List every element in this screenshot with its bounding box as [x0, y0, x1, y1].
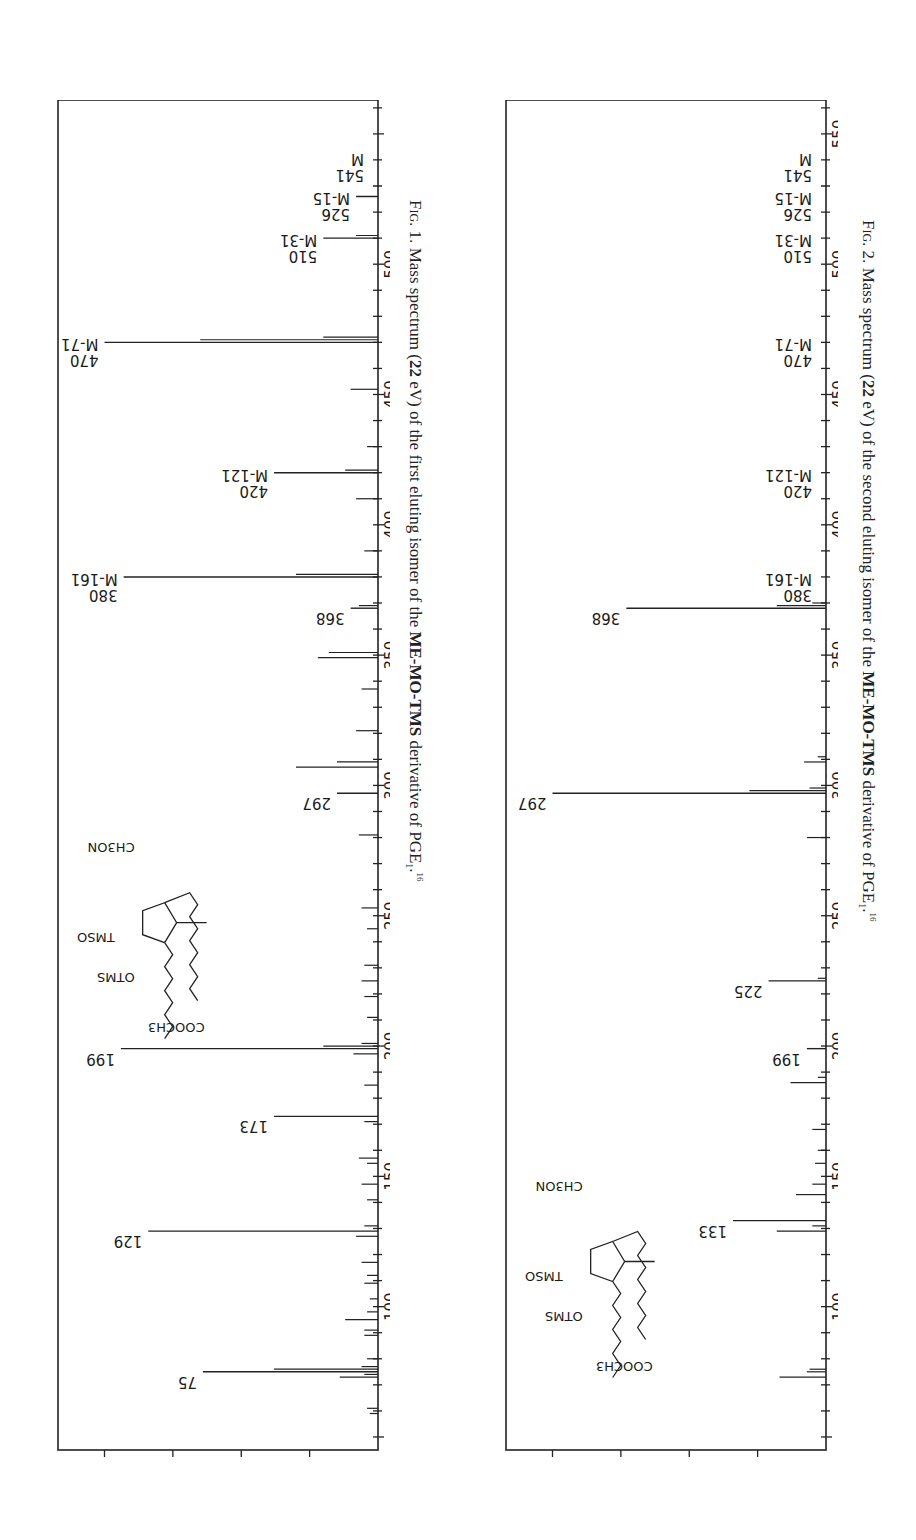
svg-text:500: 500	[382, 250, 390, 279]
peak-label: 510	[289, 247, 318, 265]
peak-label: 541	[783, 166, 812, 184]
svg-text:OTMS: OTMS	[97, 970, 135, 985]
peak-label: 380	[89, 586, 118, 604]
svg-text:100: 100	[382, 1292, 390, 1321]
svg-text:350: 350	[382, 641, 390, 670]
svg-text:100: 100	[830, 1292, 838, 1321]
peak-label: M-71	[61, 335, 98, 353]
x-axis-tick-labels: 100150200250300350400450500550	[830, 120, 838, 1321]
svg-text:550: 550	[830, 120, 838, 149]
svg-text:21.8: 21.8	[521, 100, 552, 103]
svg-text:75: 75	[612, 1459, 630, 1460]
peak-label: M-71	[775, 335, 812, 353]
plot-area: 100150200250300350400450500255075100RELA…	[58, 100, 390, 1460]
peak-label: 470	[783, 351, 812, 369]
svg-text:100: 100	[539, 1459, 566, 1460]
peak-label: 129	[114, 1232, 143, 1250]
svg-text:450: 450	[382, 380, 390, 409]
peak-label: M-121	[221, 466, 268, 484]
svg-text:200: 200	[830, 1032, 838, 1061]
figure-1-caption: Fig. 1. Mass spectrum (22 eV) of the fir…	[404, 200, 425, 882]
svg-text:Σ%: Σ%	[806, 100, 828, 103]
plot-frame	[58, 100, 378, 1450]
peak-label: 173	[239, 1117, 268, 1135]
svg-text:150: 150	[830, 1162, 838, 1191]
peak-label: 75	[178, 1373, 197, 1391]
mass-spectrum-chart-1: 100150200250300350400450500255075100RELA…	[6, 100, 390, 1460]
peak-label: 420	[783, 482, 812, 500]
svg-text:Σ%: Σ%	[358, 100, 380, 103]
svg-text:8.4: 8.4	[82, 100, 104, 103]
peak-label: M	[799, 150, 812, 168]
fig-label: Fig. 2.	[859, 220, 878, 263]
mass-spectrum-chart-2: 100150200250300350400450500550m/e2550751…	[454, 100, 838, 1460]
svg-text:250: 250	[382, 901, 390, 930]
svg-text:400: 400	[382, 510, 390, 539]
svg-text:11: 11	[671, 100, 689, 103]
plot-area: 100150200250300350400450500550m/e2550751…	[506, 100, 838, 1460]
chart-2-svg: 100150200250300350400450500550m/e2550751…	[458, 100, 838, 1460]
svg-text:150: 150	[382, 1162, 390, 1191]
peak-label: 133	[698, 1222, 727, 1240]
svg-text:250: 250	[830, 901, 838, 930]
svg-text:CH3ON: CH3ON	[88, 840, 135, 855]
svg-text:200: 200	[382, 1032, 390, 1061]
svg-text:TMSO: TMSO	[525, 1269, 564, 1284]
peak-label: 470	[70, 351, 99, 369]
peak-label: M-121	[765, 466, 812, 484]
peak-label: 541	[335, 166, 364, 184]
pge1-structure: COOCH3CH3ONTMSOOTMS	[77, 840, 207, 1039]
svg-text:25: 25	[301, 1459, 319, 1460]
peak-label: 225	[734, 982, 763, 1000]
svg-text:COOCH3: COOCH3	[148, 1020, 205, 1035]
svg-text:4: 4	[232, 100, 241, 103]
peak-label: 297	[518, 794, 547, 812]
svg-text:300: 300	[382, 771, 390, 800]
peak-label: 199	[86, 1050, 115, 1068]
svg-text:500: 500	[830, 250, 838, 279]
peak-label: 368	[316, 609, 345, 627]
reference-superscript: 16	[868, 912, 878, 921]
svg-text:CH3ON: CH3ON	[536, 1179, 583, 1194]
fig-label: Fig. 1.	[406, 200, 425, 243]
svg-text:75: 75	[164, 1459, 182, 1460]
peak-label: M-161	[71, 570, 118, 588]
peak-label: 199	[772, 1050, 801, 1068]
svg-text:300: 300	[830, 771, 838, 800]
peak-label: 368	[592, 609, 621, 627]
chart-1-svg: 100150200250300350400450500255075100RELA…	[10, 100, 390, 1460]
peak-label: 510	[783, 247, 812, 265]
peak-label: M-15	[775, 189, 812, 207]
svg-text:50: 50	[232, 1459, 250, 1460]
svg-text:COOCH3: COOCH3	[596, 1359, 653, 1374]
svg-text:400: 400	[830, 510, 838, 539]
peak-label: 297	[302, 794, 331, 812]
svg-text:100: 100	[91, 1459, 118, 1460]
peak-label: M-15	[313, 189, 350, 207]
svg-text:50: 50	[680, 1459, 698, 1460]
reference-superscript: 16	[415, 873, 425, 882]
figure-2-caption: Fig. 2. Mass spectrum (22 eV) of the sec…	[857, 220, 878, 921]
svg-text:TMSO: TMSO	[77, 930, 116, 945]
peaks: 75129173199297368M-161380M-121420M-71470…	[61, 150, 378, 1413]
svg-text:350: 350	[830, 641, 838, 670]
peak-label: M-161	[765, 570, 812, 588]
pge1-structure: COOCH3CH3ONTMSOOTMS	[525, 1179, 655, 1378]
peak-label: 526	[783, 205, 812, 223]
peak-label: 420	[239, 482, 268, 500]
x-axis-tick-labels: 100150200250300350400450500	[382, 250, 390, 1321]
peak-label: M	[351, 150, 364, 168]
peak-label: M-31	[280, 231, 317, 249]
svg-text:25: 25	[749, 1459, 767, 1460]
peak-label: M-31	[775, 231, 812, 249]
peak-label: 380	[783, 586, 812, 604]
svg-text:OTMS: OTMS	[545, 1309, 583, 1324]
plot-frame	[506, 100, 826, 1450]
peak-label: 526	[321, 205, 350, 223]
svg-text:450: 450	[830, 380, 838, 409]
